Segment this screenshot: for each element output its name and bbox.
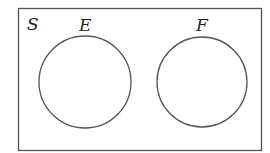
universe-rectangle [19, 9, 262, 151]
set-f-circle [157, 37, 247, 127]
set-e-circle [39, 36, 131, 128]
set-f-label: F [195, 15, 209, 35]
set-e-label: E [78, 15, 92, 35]
universe-label: S [27, 14, 39, 34]
venn-diagram: S E F [0, 0, 270, 153]
